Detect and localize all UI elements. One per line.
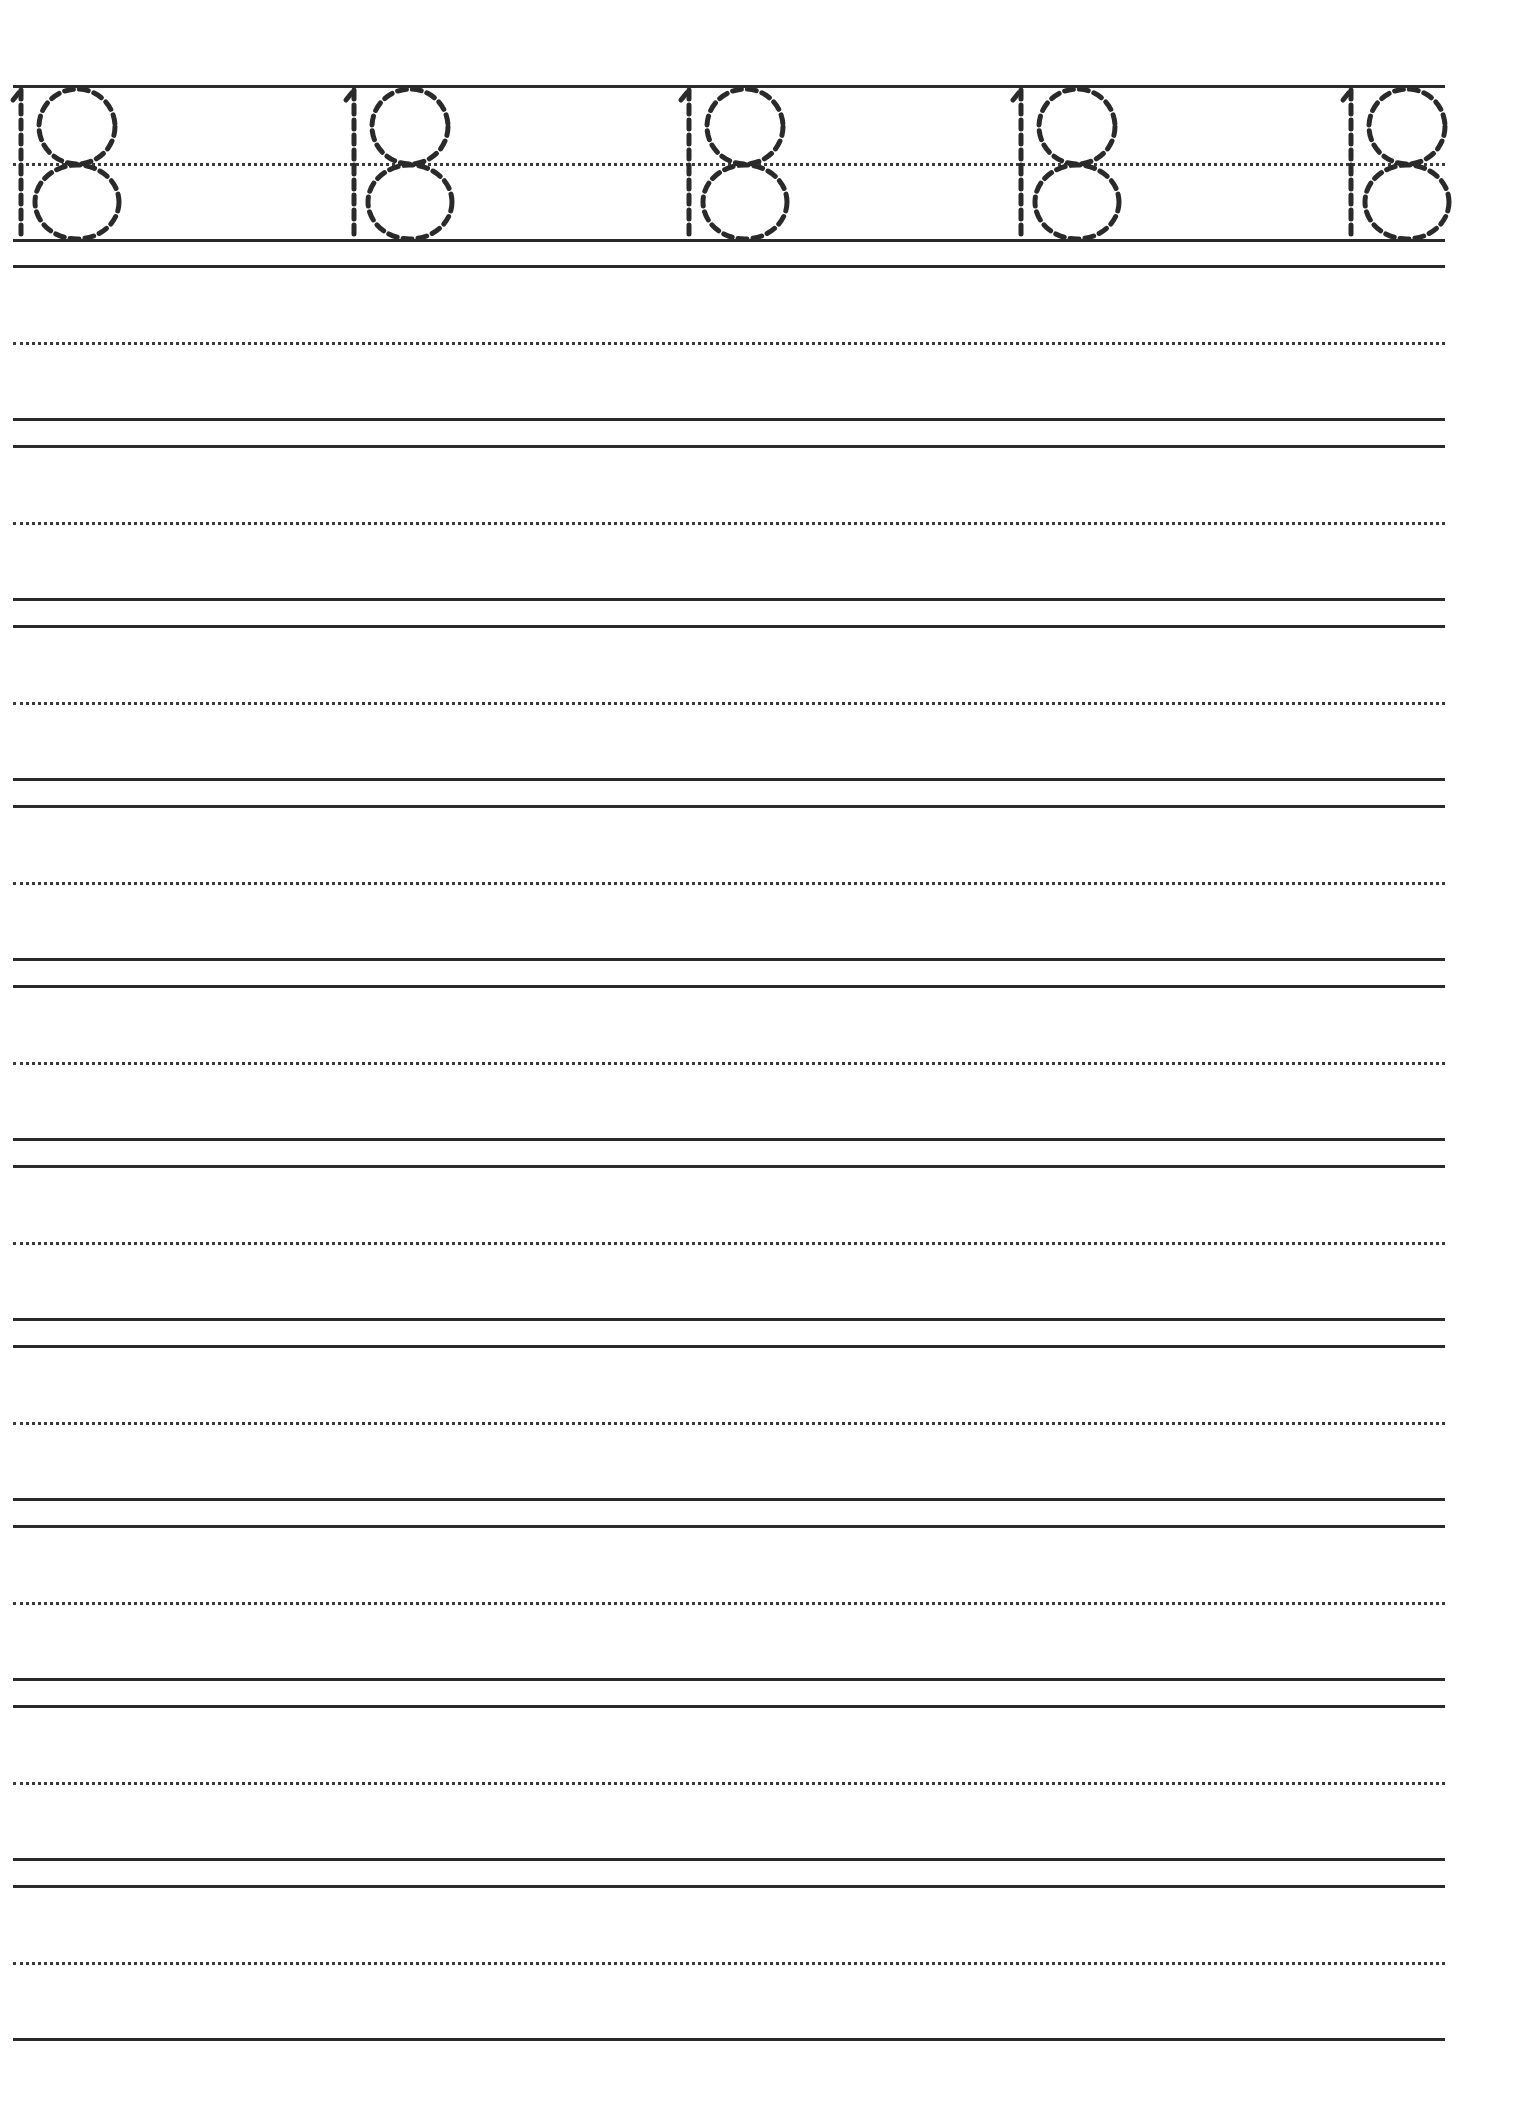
top-line <box>13 265 1445 268</box>
handwriting-worksheet <box>0 0 1533 2107</box>
midline <box>13 702 1445 705</box>
midline <box>13 1062 1445 1065</box>
dashed-number-18 <box>5 86 115 247</box>
top-line <box>13 1345 1445 1348</box>
top-line <box>13 805 1445 808</box>
dashed-number-18 <box>1005 86 1115 247</box>
midline <box>13 522 1445 525</box>
dashed-number-18 <box>673 86 783 247</box>
top-line <box>13 1885 1445 1888</box>
midline <box>13 1782 1445 1785</box>
midline <box>13 1242 1445 1245</box>
top-line <box>13 1165 1445 1168</box>
baseline <box>13 1138 1445 1141</box>
midline <box>13 882 1445 885</box>
top-line <box>13 445 1445 448</box>
midline <box>13 1602 1445 1605</box>
dashed-number-18 <box>1335 86 1445 247</box>
midline <box>13 342 1445 345</box>
top-line <box>13 985 1445 988</box>
baseline <box>13 778 1445 781</box>
baseline <box>13 1318 1445 1321</box>
baseline <box>13 2038 1445 2041</box>
top-line <box>13 1705 1445 1708</box>
baseline <box>13 958 1445 961</box>
baseline <box>13 1678 1445 1681</box>
top-line <box>13 625 1445 628</box>
baseline <box>13 418 1445 421</box>
midline <box>13 1962 1445 1965</box>
baseline <box>13 1858 1445 1861</box>
top-line <box>13 1525 1445 1528</box>
baseline <box>13 598 1445 601</box>
midline <box>13 1422 1445 1425</box>
dashed-number-18 <box>338 86 448 247</box>
baseline <box>13 1498 1445 1501</box>
